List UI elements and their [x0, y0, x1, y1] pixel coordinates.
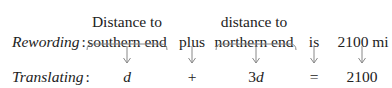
- arrow-3: [253, 46, 260, 63]
- arrow-5: [359, 46, 366, 63]
- translating-label: Translating:: [12, 69, 90, 85]
- arrow-2: [189, 46, 196, 63]
- translating-item-1: d: [123, 69, 131, 85]
- arrow-1: [124, 46, 131, 63]
- translating-item-3: 3d: [248, 69, 264, 85]
- translating-item-2: +: [188, 69, 197, 85]
- arrow-4: [311, 46, 318, 63]
- translating-item-4: =: [310, 69, 319, 85]
- translating-item-5: 2100: [347, 69, 378, 85]
